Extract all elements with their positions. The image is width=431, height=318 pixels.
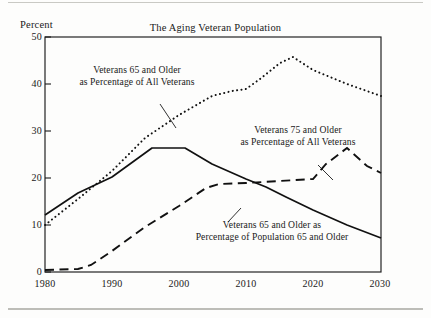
annotation-line-2: as Percentage of All Veterans bbox=[62, 76, 212, 88]
leader-line-veterans-75-all bbox=[318, 165, 333, 180]
y-axis-ticks bbox=[45, 37, 51, 272]
annotation-line-1: Veterans 75 and Older bbox=[218, 124, 378, 136]
plot-area bbox=[0, 0, 431, 318]
annotation-line-1: Veterans 65 and Older as bbox=[172, 219, 372, 231]
annotation-line-2: Percentage of Population 65 and Older bbox=[172, 231, 372, 243]
annotation-line-2: as Percentage of All Veterans bbox=[218, 136, 378, 148]
annotation-veterans-75-all-veterans: Veterans 75 and Older as Percentage of A… bbox=[218, 124, 378, 149]
annotation-line-1: Veterans 65 and Older bbox=[62, 64, 212, 76]
annotation-veterans-65-all-veterans: Veterans 65 and Older as Percentage of A… bbox=[62, 64, 212, 89]
annotation-veterans-65-population-65: Veterans 65 and Older as Percentage of P… bbox=[172, 219, 372, 244]
figure-container: Percent The Aging Veteran Population 0 1… bbox=[0, 0, 431, 318]
leader-line-veterans-65-all bbox=[160, 104, 176, 128]
series-veterans-75-pct-all-veterans bbox=[45, 148, 381, 270]
